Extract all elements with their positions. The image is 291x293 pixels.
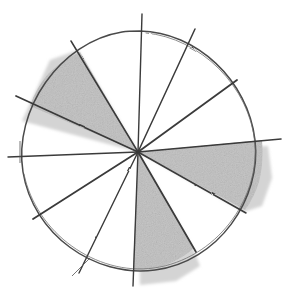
rim-tick-group — [20, 141, 90, 276]
radial-line-4 — [8, 152, 138, 157]
sector-shading-group — [30, 52, 263, 270]
radial-line-12 — [138, 29, 195, 152]
rim-tick-bottom — [72, 258, 90, 276]
circle-sector-diagram — [0, 0, 291, 293]
radial-line-11 — [138, 80, 237, 152]
radial-line-1 — [138, 14, 142, 152]
figure-canvas: Hand-drawn circle divided into twelve ra… — [0, 0, 291, 293]
